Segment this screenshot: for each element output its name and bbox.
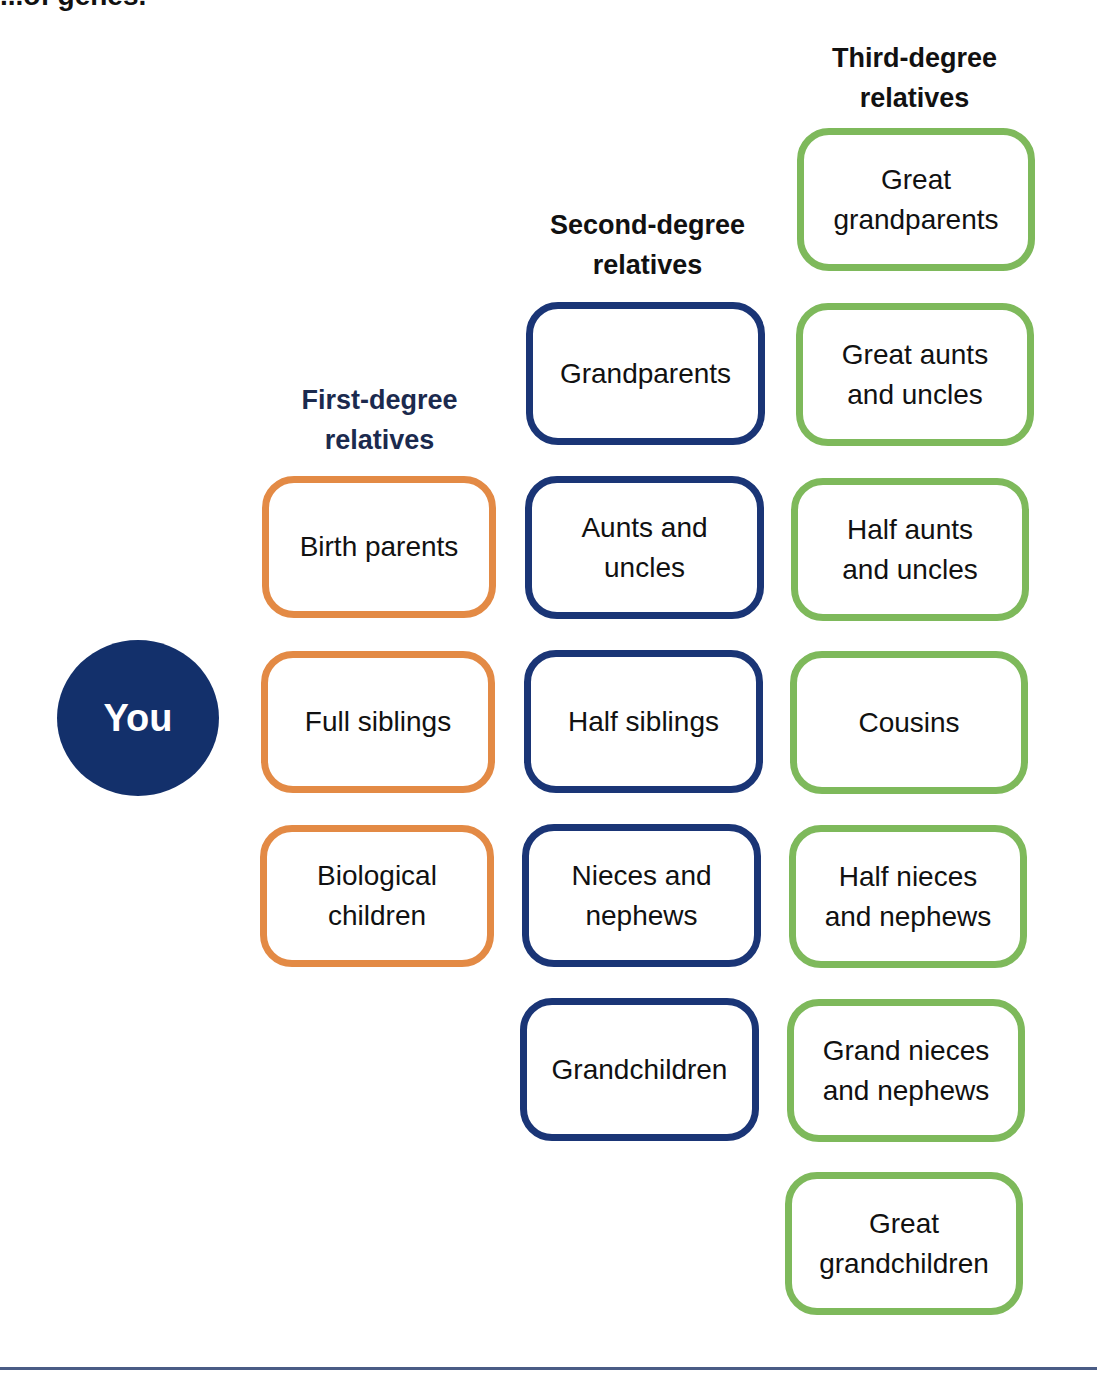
first-degree-item: Full siblings (261, 651, 495, 793)
first-degree-item: Biological children (260, 825, 494, 967)
heading-line: Third-degree (797, 38, 1032, 78)
third-degree-item: Half aunts and uncles (791, 478, 1029, 621)
you-node: You (57, 640, 219, 796)
heading-line: relatives (262, 420, 497, 460)
heading-line: relatives (797, 78, 1032, 118)
second-degree-item: Grandchildren (520, 998, 759, 1141)
first-degree-item: Birth parents (262, 476, 496, 618)
second-degree-item: Half siblings (524, 650, 763, 793)
second-degree-item: Nieces and nephews (522, 824, 761, 967)
bottom-divider (0, 1367, 1097, 1370)
heading-line: First-degree (262, 380, 497, 420)
first-degree-heading: First-degree relatives (262, 380, 497, 460)
third-degree-item: Cousins (790, 651, 1028, 794)
second-degree-item: Grandparents (526, 302, 765, 445)
second-degree-heading: Second-degree relatives (530, 205, 765, 285)
third-degree-item: Half nieces and nephews (789, 825, 1027, 968)
third-degree-item: Great aunts and uncles (796, 303, 1034, 446)
third-degree-item: Great grandchildren (785, 1172, 1023, 1315)
third-degree-heading: Third-degree relatives (797, 38, 1032, 118)
heading-line: relatives (530, 245, 765, 285)
third-degree-item: Grand nieces and nephews (787, 999, 1025, 1142)
third-degree-item: Great grandparents (797, 128, 1035, 271)
heading-line: Second-degree (530, 205, 765, 245)
cut-off-title: ...of genes. (0, 0, 146, 12)
second-degree-item: Aunts and uncles (525, 476, 764, 619)
